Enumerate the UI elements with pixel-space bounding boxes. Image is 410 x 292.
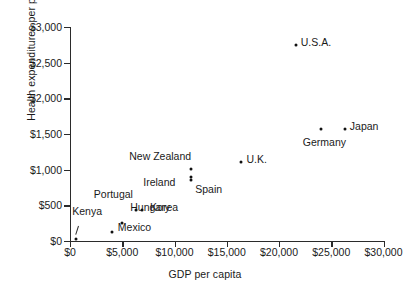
y-tick [64, 205, 70, 206]
data-point[interactable] [121, 222, 124, 225]
data-point[interactable] [294, 43, 297, 46]
data-point-label: U.K. [246, 153, 266, 165]
x-tick-label: $30,000 [365, 246, 403, 258]
x-axis-title: GDP per capita [0, 268, 410, 280]
y-tick-label: $1,500 [30, 128, 62, 140]
data-point-label: Ireland [143, 176, 175, 188]
x-tick-label: $15,000 [208, 246, 246, 258]
data-point[interactable] [240, 160, 243, 163]
x-tick-label: $5,000 [106, 246, 138, 258]
x-tick-label: $20,000 [260, 246, 298, 258]
data-point-label: U.S.A. [301, 36, 331, 48]
y-tick [64, 134, 70, 135]
scatter-chart: Health expenditures per person GDP per c… [0, 0, 410, 292]
data-point-label: Japan [350, 120, 379, 132]
y-axis-line [70, 27, 71, 242]
data-point[interactable] [190, 175, 193, 178]
data-point-label: Germany [303, 136, 346, 148]
x-tick-label: $0 [64, 246, 76, 258]
y-tick [64, 170, 70, 171]
data-point[interactable] [75, 237, 78, 240]
data-point-label: Portugal [94, 188, 133, 200]
data-point[interactable] [134, 209, 137, 212]
data-point[interactable] [141, 209, 144, 212]
data-point-label: Kenya [72, 205, 102, 217]
data-point[interactable] [343, 128, 346, 131]
y-tick-label: $2,000 [30, 92, 62, 104]
y-tick-label: $500 [39, 199, 62, 211]
data-point[interactable] [110, 230, 113, 233]
y-tick [64, 63, 70, 64]
y-tick-label: $0 [50, 235, 62, 247]
x-tick-label: $25,000 [312, 246, 350, 258]
x-tick-label: $10,000 [156, 246, 194, 258]
data-point-label: Spain [195, 183, 222, 195]
y-tick-label: $2,500 [30, 57, 62, 69]
data-point[interactable] [190, 167, 193, 170]
data-point[interactable] [319, 128, 322, 131]
y-tick-label: $1,000 [30, 164, 62, 176]
y-tick [64, 98, 70, 99]
data-point-label: Korea [150, 201, 178, 213]
kenya-leader-line [76, 226, 80, 235]
data-point[interactable] [190, 179, 193, 182]
data-point-label: New Zealand [129, 150, 191, 162]
y-tick-label: $3,000 [30, 21, 62, 33]
y-tick [64, 27, 70, 28]
